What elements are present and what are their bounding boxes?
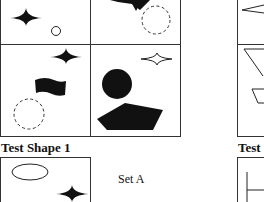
four-point-star-icon [10,8,42,26]
test-shape-2-box [237,157,264,202]
black-flag-icon [35,78,66,96]
set-a-label: Set A [118,172,144,187]
black-pentagon-icon [97,103,163,130]
test-shape-2-title: Test Shape 2 [238,140,264,156]
black-circle-icon [102,69,132,99]
partial-trapezoid-shape [252,89,264,103]
small-circle-icon [52,27,61,36]
partial-trapezoid-shape [244,49,264,76]
dashed-circle-icon [14,99,44,129]
test-shape-1-title: Test Shape 1 [1,140,71,156]
black-triangle-icon [102,0,152,10]
test-shape-1-box [0,157,91,202]
four-point-star-icon [50,48,82,64]
dashed-circle-icon [142,6,170,34]
outline-star-icon [141,53,172,65]
partial-outline-shape [242,5,264,13]
